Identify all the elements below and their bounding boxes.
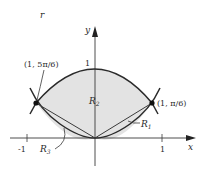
y-axis-arrow-icon — [92, 26, 98, 37]
region-r3-label: R3 — [39, 144, 51, 155]
curve-label: r — [40, 10, 45, 20]
point-right — [149, 100, 154, 105]
polar-diagram: r y x 1 -1 1 (1, 5π/6) (1, π/6) R2 R1 R3 — [0, 0, 205, 169]
y-tick-label-1: 1 — [85, 59, 90, 68]
x-tick-label-1: 1 — [160, 145, 165, 154]
point-right-label: (1, π/6) — [157, 99, 186, 108]
point-left-label: (1, 5π/6) — [24, 60, 59, 69]
region-r1-label: R1 — [140, 119, 152, 130]
x-axis-label: x — [188, 142, 193, 152]
x-tick-label-neg1: -1 — [18, 145, 26, 154]
x-axis-arrow-icon — [186, 135, 196, 141]
y-axis-label: y — [84, 25, 91, 35]
point-left — [33, 100, 38, 105]
